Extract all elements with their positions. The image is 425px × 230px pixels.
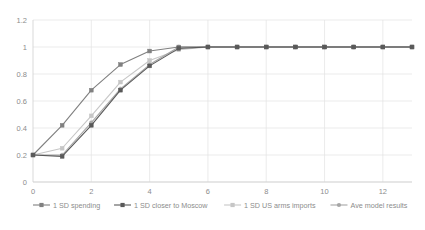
data-point-marker [60,154,64,158]
data-point-marker [352,45,356,49]
legend-swatch-marker [230,203,234,207]
data-point-marker [148,64,152,68]
data-point-marker [206,45,210,49]
data-point-marker [410,45,414,49]
legend-swatch-marker [39,203,43,207]
chart-legend: 1 SD spending1 SD closer to Moscow1 SD U… [33,201,408,210]
legend-label: 1 SD US arms imports [244,201,316,210]
y-tick-label: 0.8 [17,70,27,79]
legend-item[interactable]: 1 SD closer to Moscow [114,201,208,210]
data-point-marker [31,153,35,157]
x-axis-tick-labels: 024681012 [31,187,387,196]
legend-label: 1 SD spending [53,201,100,210]
data-point-marker [89,114,93,118]
y-tick-label: 1 [23,43,27,52]
data-series [31,45,414,158]
y-tick-label: 0.2 [17,151,27,160]
series-line [33,47,412,156]
y-tick-label: 1.2 [17,16,27,25]
x-tick-label: 12 [379,187,387,196]
legend-label: Ave model results [350,201,407,210]
y-tick-label: 0.4 [17,124,27,133]
y-tick-label: 0 [23,178,27,187]
legend-item[interactable]: 1 SD US arms imports [224,201,316,210]
x-tick-label: 4 [148,187,152,196]
x-tick-label: 8 [264,187,268,196]
data-point-marker [89,88,93,92]
chart-container: 00.20.40.60.811.2 024681012 1 SD spendin… [0,0,425,230]
data-point-marker [60,123,64,127]
data-point-marker [323,45,327,49]
legend-item[interactable]: Ave model results [330,201,407,210]
data-point-marker [119,63,123,67]
data-point-marker [148,49,152,53]
data-point-marker [89,123,93,127]
data-point-marker [264,45,268,49]
data-point-marker [119,80,123,84]
series-1-sd-closer-to-moscow [31,45,414,158]
data-point-marker [177,46,181,50]
legend-swatch-marker [120,203,124,207]
x-tick-label: 2 [89,187,93,196]
data-point-marker [293,45,297,49]
data-point-marker [148,59,152,63]
legend-swatch-marker [337,203,341,207]
data-point-marker [119,88,123,92]
data-point-marker [381,45,385,49]
x-tick-label: 10 [320,187,328,196]
gridlines [33,20,412,182]
data-point-marker [235,45,239,49]
legend-item[interactable]: 1 SD spending [33,201,100,210]
x-tick-label: 0 [31,187,35,196]
y-tick-label: 0.6 [17,97,27,106]
x-tick-label: 6 [206,187,210,196]
data-point-marker [60,146,64,150]
y-axis-tick-labels: 00.20.40.60.811.2 [17,16,27,187]
legend-label: 1 SD closer to Moscow [134,201,208,210]
line-chart: 00.20.40.60.811.2 024681012 1 SD spendin… [0,0,425,230]
